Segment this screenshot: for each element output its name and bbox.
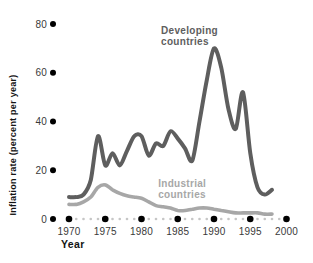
y-tick-label: 60 xyxy=(35,67,47,78)
x-minor-tick-dot xyxy=(133,218,136,221)
x-tick-label: 1985 xyxy=(166,226,189,237)
x-minor-tick-dot xyxy=(162,218,165,221)
y-tick-label: 80 xyxy=(35,19,47,30)
chart-canvas: 0204060801970197519801985199019952000Dev… xyxy=(0,0,313,263)
x-minor-tick-dot xyxy=(118,218,121,221)
x-minor-tick-dot xyxy=(75,218,78,221)
y-tick-dot xyxy=(50,167,56,173)
x-minor-tick-dot xyxy=(227,218,230,221)
x-tick-label: 2000 xyxy=(275,226,298,237)
x-minor-tick-dot xyxy=(97,218,100,221)
x-minor-tick-dot xyxy=(278,218,281,221)
x-tick-label: 1990 xyxy=(202,226,225,237)
x-minor-tick-dot xyxy=(126,218,129,221)
y-tick-dot xyxy=(50,21,56,27)
x-minor-tick-dot xyxy=(155,218,158,221)
x-minor-tick-dot xyxy=(242,218,245,221)
y-tick-label: 0 xyxy=(41,214,47,225)
x-minor-tick-dot xyxy=(263,218,266,221)
y-axis-title: Inflation rate (percent per year) xyxy=(8,75,18,216)
developing-countries-label: Developingcountries xyxy=(161,25,218,47)
x-axis-title: Year xyxy=(61,238,85,250)
y-tick-dot xyxy=(50,216,56,222)
x-minor-tick-dot xyxy=(256,218,259,221)
y-tick-label: 20 xyxy=(35,165,47,176)
x-minor-tick-dot xyxy=(234,218,237,221)
y-tick-label: 40 xyxy=(35,116,47,127)
x-tick-label: 1970 xyxy=(57,226,80,237)
x-minor-tick-dot xyxy=(191,218,194,221)
y-tick-dot xyxy=(50,119,56,125)
industrial-countries-label: Industrialcountries xyxy=(158,178,206,200)
x-major-tick-dot xyxy=(66,216,73,223)
x-tick-label: 1975 xyxy=(94,226,117,237)
developing-countries-line xyxy=(69,48,272,197)
x-minor-tick-dot xyxy=(271,218,274,221)
x-minor-tick-dot xyxy=(147,218,150,221)
x-major-tick-dot xyxy=(211,216,218,223)
x-tick-label: 1995 xyxy=(239,226,262,237)
x-major-tick-dot xyxy=(247,216,254,223)
x-minor-tick-dot xyxy=(169,218,172,221)
x-minor-tick-dot xyxy=(220,218,223,221)
y-tick-dot xyxy=(50,70,56,76)
x-major-tick-dot xyxy=(283,216,290,223)
x-minor-tick-dot xyxy=(184,218,187,221)
x-major-tick-dot xyxy=(138,216,145,223)
x-tick-label: 1980 xyxy=(130,226,153,237)
x-minor-tick-dot xyxy=(82,218,85,221)
x-minor-tick-dot xyxy=(111,218,114,221)
x-major-tick-dot xyxy=(102,216,109,223)
x-major-tick-dot xyxy=(174,216,181,223)
x-minor-tick-dot xyxy=(198,218,201,221)
x-minor-tick-dot xyxy=(89,218,92,221)
inflation-line-chart: 0204060801970197519801985199019952000Dev… xyxy=(0,0,313,263)
x-minor-tick-dot xyxy=(205,218,208,221)
